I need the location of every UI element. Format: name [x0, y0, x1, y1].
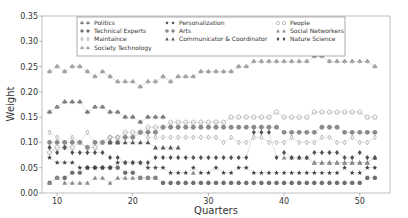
legend-label: Arts	[179, 27, 191, 34]
y-axis-title: Weight	[5, 87, 16, 122]
legend: PoliticsTechnical ExpertsMaintainceSocie…	[77, 17, 345, 56]
legend-label: Communicator & Coordinator	[179, 35, 268, 42]
legend-label: Nature Science	[290, 35, 336, 42]
legend-label: Technical Experts	[93, 27, 146, 35]
x-tick-label: 50	[355, 197, 365, 206]
y-axis: 0.000.050.100.150.200.250.300.35	[20, 12, 42, 198]
y-tick-label: 0.20	[20, 88, 38, 97]
y-tick-label: 0.15	[20, 113, 38, 122]
scatter-chart: 0.000.050.100.150.200.250.300.35 1020304…	[0, 0, 408, 218]
x-tick-label: 10	[52, 197, 62, 206]
legend-label: Personalization	[179, 19, 225, 26]
legend-label: Social Networkers	[290, 27, 344, 34]
y-tick-label: 0.00	[20, 189, 38, 198]
x-axis-title: Quarters	[194, 205, 238, 216]
y-tick-label: 0.30	[20, 37, 38, 46]
legend-label: Politics	[94, 19, 115, 26]
y-tick-label: 0.35	[20, 12, 38, 21]
x-tick-label: 20	[128, 197, 138, 206]
legend-label: Maintaince	[94, 35, 127, 42]
y-tick-label: 0.05	[20, 164, 38, 173]
x-tick-label: 40	[279, 197, 289, 206]
y-tick-label: 0.10	[20, 138, 38, 147]
legend-label: People	[290, 19, 310, 27]
legend-item: Communicator & Coordinator	[165, 35, 267, 42]
legend-label: Society Technology	[94, 44, 152, 52]
y-tick-label: 0.25	[20, 63, 38, 72]
